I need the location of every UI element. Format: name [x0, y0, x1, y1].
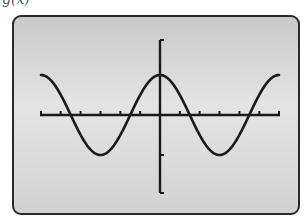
calculator-screen	[12, 15, 300, 215]
function-plot	[14, 17, 300, 215]
axes	[40, 40, 280, 193]
function-label-fragment: g(x)	[2, 0, 30, 7]
